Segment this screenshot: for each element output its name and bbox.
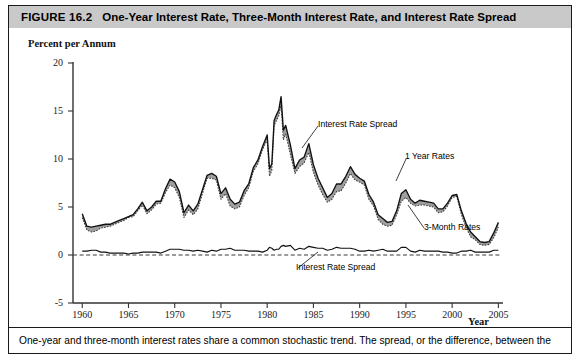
y-tick-label: 10 [37, 153, 63, 164]
annotation-spread-lower: Interest Rate Spread [296, 262, 375, 272]
annotation-spread-upper: Interest Rate Spread [318, 119, 397, 129]
annotation-one-year-rates: 1 Year Rates [405, 151, 454, 161]
y-tick-label: 5 [37, 201, 63, 212]
x-tick-label: 1995 [386, 309, 426, 320]
one-year-leader-line [396, 159, 406, 181]
three-month-leader-line [408, 205, 424, 228]
y-tick-label: 20 [37, 57, 63, 68]
x-tick-label: 1990 [340, 309, 380, 320]
x-tick-label: 1980 [247, 309, 287, 320]
x-tick-label: 1975 [201, 309, 241, 320]
y-axis-title: Percent per Annum [28, 38, 116, 49]
axis-ticks [68, 63, 498, 308]
x-tick-label: 2005 [478, 309, 518, 320]
x-tick-label: 1960 [62, 309, 102, 320]
spread-line [82, 245, 498, 254]
y-tick-label: 0 [37, 249, 63, 260]
y-tick-label: 15 [37, 105, 63, 116]
figure-caption-bar: One-year and three-month interest rates … [8, 328, 572, 354]
interest-rate-chart [0, 0, 580, 330]
x-tick-label: 1985 [293, 309, 333, 320]
figure-caption: One-year and three-month interest rates … [19, 335, 551, 347]
x-tick-label: 1970 [155, 309, 195, 320]
annotation-three-month-rates: 3-Month Rates [424, 222, 480, 232]
y-tick-label: -5 [37, 297, 63, 308]
spread-upper-leader-line [302, 126, 318, 148]
x-tick-label: 1965 [108, 309, 148, 320]
figure-container: FIGURE 16.2 One-Year Interest Rate, Thre… [0, 0, 580, 356]
one-year-rate-line [82, 97, 498, 243]
x-tick-label: 2000 [432, 309, 472, 320]
